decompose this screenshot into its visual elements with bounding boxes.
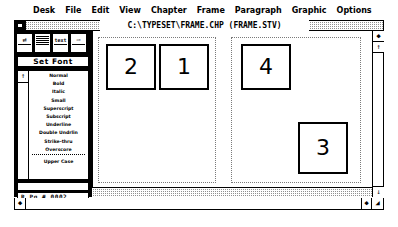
page-left[interactable]: 2 1 [98, 37, 216, 183]
vertical-scrollbar[interactable]: ◆ ↑ ↓ [372, 31, 384, 197]
text-mode-base [54, 44, 67, 51]
horizontal-scrollbar[interactable]: ◆ ◆ ◢ [14, 198, 384, 210]
frame-3[interactable]: 3 [298, 122, 348, 174]
ventura-publisher-window: Desk File Edit View Chapter Frame Paragr… [0, 0, 398, 227]
frame-label: 2 [124, 56, 138, 78]
page-field-input[interactable] [17, 182, 89, 191]
scroll-first-page-icon[interactable]: ◆ [373, 31, 384, 42]
list-item[interactable]: Small [29, 97, 88, 105]
menu-file[interactable]: File [60, 6, 86, 15]
menu-frame[interactable]: Frame [192, 6, 230, 15]
mode-button-row: ⇄ text ⇨ [16, 33, 90, 53]
list-item[interactable]: Overscore [29, 146, 88, 154]
text-mode-icon[interactable]: text [52, 33, 69, 53]
list-item[interactable]: Normal [29, 72, 88, 80]
attribute-list: Normal Bold Italic Small Superscript Sub… [29, 71, 88, 179]
menu-options[interactable]: Options [332, 6, 377, 15]
frame-1[interactable]: 1 [159, 44, 209, 90]
scroll-up-icon[interactable]: ↑ [373, 42, 384, 53]
title-bar[interactable]: C:\TYPESET\FRAME.CHP (FRAME.STV) [14, 20, 384, 31]
menu-edit[interactable]: Edit [87, 6, 115, 15]
frame-2[interactable]: 2 [106, 44, 156, 90]
menu-bar: Desk File Edit View Chapter Frame Paragr… [0, 4, 398, 17]
attribute-scrollbar[interactable]: ↑ [18, 71, 29, 179]
frame-label: 1 [177, 56, 191, 78]
menu-chapter[interactable]: Chapter [146, 6, 192, 15]
window-title: C:\TYPESET\FRAME.CHP (FRAME.STV) [100, 20, 309, 31]
menu-graphic[interactable]: Graphic [287, 6, 332, 15]
page-right[interactable]: 4 3 [231, 37, 361, 183]
scroll-right-icon[interactable]: ◆ [361, 198, 372, 209]
set-font-button[interactable]: Set Font [17, 56, 89, 67]
document-canvas[interactable]: 2 1 4 3 [92, 31, 372, 197]
scroll-left-icon[interactable]: ◆ [15, 198, 26, 209]
paragraph-mode-icon[interactable] [34, 33, 51, 53]
side-panel: ⇄ text ⇨ Set Font ↑ Normal Bo [14, 31, 92, 197]
list-item[interactable]: Double Undrlin [29, 129, 88, 137]
list-item[interactable]: Underline [29, 121, 88, 129]
graphic-mode-base [72, 44, 85, 51]
list-item[interactable]: Superscript [29, 105, 88, 113]
list-item[interactable]: Strike-thru [29, 138, 88, 146]
menu-paragraph[interactable]: Paragraph [230, 6, 287, 15]
graphic-mode-icon[interactable]: ⇨ [70, 33, 87, 53]
frame-4[interactable]: 4 [241, 44, 291, 90]
list-item[interactable]: Subscript [29, 113, 88, 121]
menu-view[interactable]: View [114, 6, 146, 15]
list-item[interactable]: Italic [29, 88, 88, 96]
paragraph-mode-base [36, 44, 49, 51]
list-item[interactable]: Bold [29, 80, 88, 88]
attribute-scroll-up-icon[interactable]: ↑ [18, 71, 28, 83]
frame-label: 3 [316, 137, 330, 159]
menu-desk[interactable]: Desk [28, 6, 60, 15]
frame-mode-base [18, 44, 31, 51]
list-item[interactable]: Upper Case [29, 158, 88, 166]
close-icon[interactable] [15, 21, 26, 30]
frame-mode-icon[interactable]: ⇄ [16, 33, 33, 53]
resize-corner-icon[interactable]: ◢ [372, 198, 383, 209]
horizontal-scroll-track[interactable] [92, 187, 372, 197]
font-attribute-panel: ↑ Normal Bold Italic Small Superscript S… [17, 70, 89, 180]
scroll-down-icon[interactable]: ↓ [373, 186, 384, 197]
frame-label: 4 [259, 56, 273, 78]
